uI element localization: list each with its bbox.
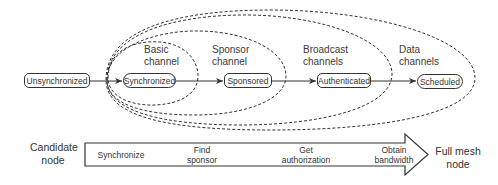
label-line: node xyxy=(30,154,76,167)
sponsor-channel-label: Sponsor channel xyxy=(212,44,249,68)
broadcast-channels-label: Broadcast channels xyxy=(303,44,348,68)
state-scheduled: Scheduled xyxy=(417,74,463,89)
state-synchronized: Synchronized xyxy=(123,73,176,88)
state-label: Sponsored xyxy=(227,76,268,86)
state-label: Scheduled xyxy=(420,77,460,87)
data-channels-label: Data channels xyxy=(399,44,439,68)
full-mesh-node-label: Full mesh node xyxy=(430,145,486,171)
step-line: Find xyxy=(180,145,224,155)
step-synchronize: Synchronize xyxy=(96,150,146,160)
step-find-sponsor: Find sponsor xyxy=(180,145,224,165)
label-line: channel xyxy=(212,56,249,68)
state-label: Authenticated xyxy=(318,76,370,86)
broadcast-channels-region xyxy=(107,15,392,125)
step-line: bandwidth xyxy=(372,155,416,165)
label-line: Sponsor xyxy=(212,44,249,56)
label-line: Data xyxy=(399,44,439,56)
label-line: channel xyxy=(144,56,179,68)
candidate-node-label: Candidate node xyxy=(30,141,76,167)
state-label: Synchronized xyxy=(124,76,176,86)
step-line: sponsor xyxy=(180,155,224,165)
step-line: authorization xyxy=(276,155,336,165)
step-line: Synchronize xyxy=(96,150,146,160)
data-channels-region xyxy=(106,10,475,130)
label-line: Full mesh xyxy=(430,145,486,158)
label-line: node xyxy=(430,158,486,171)
channel-regions xyxy=(106,10,475,130)
label-line: Basic xyxy=(144,44,179,56)
step-line: Obtain xyxy=(372,145,416,155)
state-sponsored: Sponsored xyxy=(224,73,272,88)
state-label: Unsynchronized xyxy=(27,76,88,86)
label-line: channels xyxy=(399,56,439,68)
step-obtain-bandwidth: Obtain bandwidth xyxy=(372,145,416,165)
state-authenticated: Authenticated xyxy=(317,73,371,88)
label-line: Candidate xyxy=(30,141,76,154)
label-line: channels xyxy=(303,56,348,68)
step-line: Get xyxy=(276,145,336,155)
state-unsynchronized: Unsynchronized xyxy=(24,73,90,88)
basic-channel-label: Basic channel xyxy=(144,44,179,68)
step-get-authorization: Get authorization xyxy=(276,145,336,165)
label-line: Broadcast xyxy=(303,44,348,56)
